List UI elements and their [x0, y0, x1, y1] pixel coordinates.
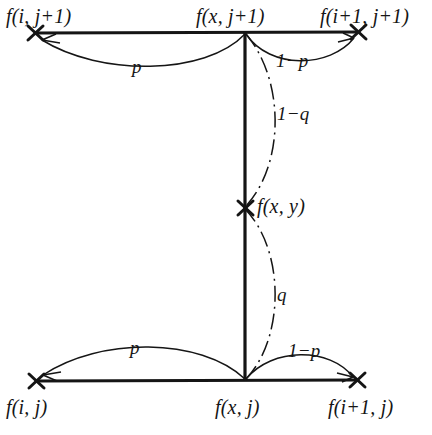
weight-label-bottom-right-1-minus-p: 1−p	[288, 341, 320, 360]
arc-lower-q	[245, 209, 275, 379]
weight-label-top-right-1-minus-p: 1−p	[276, 51, 308, 70]
node-label-top-right: f(i+1, j+1)	[320, 6, 409, 26]
weight-label-lower-vertical-q: q	[277, 285, 287, 304]
node-label-center: f(x, y)	[257, 196, 305, 216]
node-label-bottom-right: f(i+1, j)	[328, 397, 393, 417]
arc-top-left-p	[42, 34, 245, 66]
weight-label-top-left-p: p	[132, 57, 142, 76]
node-label-top-center: f(x, j+1)	[196, 6, 265, 26]
node-markers	[28, 25, 366, 388]
arc-bottom-left-p	[43, 347, 245, 379]
bilinear-interpolation-diagram: f(i, j+1) f(x, j+1) f(i+1, j+1) f(x, y) …	[0, 0, 432, 435]
grid-lines	[35, 32, 358, 381]
weight-arcs-horizontal	[42, 33, 354, 382]
diagram-canvas	[0, 0, 432, 435]
node-label-top-left: f(i, j+1)	[6, 6, 71, 26]
arc-upper-1-minus-q	[245, 34, 275, 207]
weight-label-bottom-left-p: p	[130, 338, 140, 357]
weight-label-upper-vertical-1-minus-q: 1−q	[277, 104, 309, 123]
node-label-bottom-center: f(x, j)	[215, 397, 260, 417]
bottom-horizontal-line	[36, 380, 357, 381]
top-horizontal-line	[35, 32, 358, 33]
node-label-bottom-left: f(i, j)	[6, 397, 47, 417]
